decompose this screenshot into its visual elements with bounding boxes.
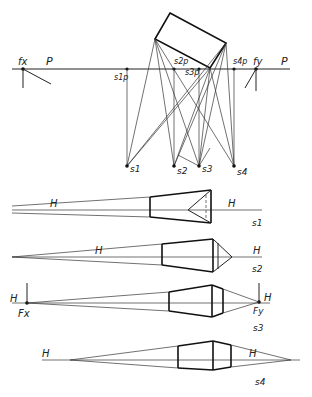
horizon-label-right: H bbox=[228, 198, 236, 209]
fx-diagonal bbox=[23, 69, 51, 84]
fy-label: fy bbox=[253, 56, 264, 67]
view-caption: s4 bbox=[255, 377, 266, 387]
fy-label: Fy bbox=[253, 306, 264, 316]
s1p-label: s1p bbox=[114, 73, 128, 82]
perspective-view-s4: H H s4 bbox=[42, 341, 300, 387]
s1-label: s1 bbox=[130, 164, 140, 174]
perspective-view-s1: H H s1 bbox=[12, 190, 262, 228]
picture-plane-label: P bbox=[46, 55, 53, 68]
station-s2 bbox=[172, 164, 176, 168]
perspective-view-s3: H H Fx Fy s3 bbox=[10, 283, 272, 333]
fx-label: Fx bbox=[18, 308, 30, 319]
s3p-label: s3p bbox=[185, 68, 199, 77]
view-caption: s2 bbox=[252, 264, 263, 274]
s2p-label: s2p bbox=[174, 57, 188, 66]
picture-plane-label-right: P bbox=[281, 55, 288, 68]
s4p-label: s4p bbox=[233, 57, 247, 66]
horizon-label-right: H bbox=[264, 292, 272, 303]
plan-view: fx P fy P s1p s2p s3p s4p s1 s2 s3 s4 bbox=[12, 13, 290, 177]
horizon-label-right: H bbox=[253, 245, 261, 256]
view-caption: s3 bbox=[253, 323, 264, 333]
horizon-label-right: H bbox=[249, 348, 257, 359]
horizon-label-left: H bbox=[42, 348, 50, 359]
plan-object-rectangle bbox=[155, 13, 226, 68]
station-s4 bbox=[232, 164, 236, 168]
perspective-view-s2: H H s2 bbox=[12, 239, 263, 274]
view-caption: s1 bbox=[252, 218, 262, 228]
s2-label: s2 bbox=[177, 166, 188, 176]
horizon-label-left: H bbox=[10, 293, 18, 304]
fx-label: fx bbox=[18, 56, 28, 67]
horizon-label-left: H bbox=[50, 198, 58, 209]
horizon-label-left: H bbox=[95, 245, 103, 256]
s3-label: s3 bbox=[202, 164, 213, 174]
s4-label: s4 bbox=[237, 167, 248, 177]
perspective-diagram: fx P fy P s1p s2p s3p s4p s1 s2 s3 s4 H … bbox=[0, 0, 312, 397]
fy-diagonal bbox=[245, 69, 256, 88]
station-s3 bbox=[197, 164, 201, 168]
station-s1 bbox=[125, 164, 129, 168]
